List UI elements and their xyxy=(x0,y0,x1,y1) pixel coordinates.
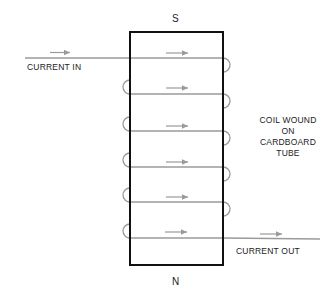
coil-note-line: CARDBOARD xyxy=(248,137,328,148)
current-in-label: CURRENT IN xyxy=(27,62,81,73)
current-direction-arrows xyxy=(165,53,188,232)
coil-turns xyxy=(123,58,230,238)
output-wire xyxy=(223,238,320,239)
coil-note-line: TUBE xyxy=(248,148,328,159)
coil-note-line: COIL WOUND xyxy=(248,115,328,126)
coil-note-line: ON xyxy=(248,126,328,137)
cardboard-tube xyxy=(130,32,223,265)
north-pole-label: N xyxy=(172,276,179,287)
current-out-label: CURRENT OUT xyxy=(236,246,300,257)
south-pole-label: S xyxy=(172,13,179,24)
coil-note-label: COIL WOUND ON CARDBOARD TUBE xyxy=(248,115,328,159)
